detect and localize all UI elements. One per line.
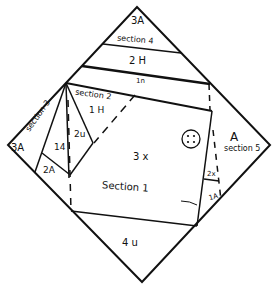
curve-mark (181, 201, 197, 205)
section4-line (103, 44, 181, 53)
label-2a: 2A (43, 166, 55, 175)
label-2x: 2x (207, 171, 216, 178)
button-circle (182, 130, 200, 148)
label-3x: 3 x (133, 152, 148, 162)
fan-line-1 (35, 83, 66, 172)
dashed-section2-diagonal (94, 95, 135, 143)
label-14: 14 (54, 143, 65, 152)
dashed-right-top (209, 84, 210, 110)
button-hole (187, 135, 189, 137)
label-2h: 2 H (129, 56, 146, 66)
pattern-diagram: 3A section 4 2 H 1n section 2 1 H 2u sec… (0, 0, 275, 286)
button-hole (193, 135, 195, 137)
2h-line (82, 66, 210, 84)
label-section5: section 5 (224, 145, 260, 153)
2u-diagonal (70, 143, 93, 175)
button-hole (193, 141, 195, 143)
label-2u: 2u (74, 130, 85, 139)
label-left-3a: 3A (11, 143, 24, 153)
label-4u: 4 u (122, 238, 138, 248)
dashed-right-section5 (213, 130, 221, 200)
button-hole (187, 141, 189, 143)
label-1n: 1n (136, 78, 145, 85)
section1-bottom (71, 211, 197, 226)
2x-box-line (204, 179, 219, 181)
label-1h: 1 H (89, 106, 104, 115)
label-top-3a: 3A (131, 16, 144, 26)
label-right-a: A (230, 131, 238, 143)
